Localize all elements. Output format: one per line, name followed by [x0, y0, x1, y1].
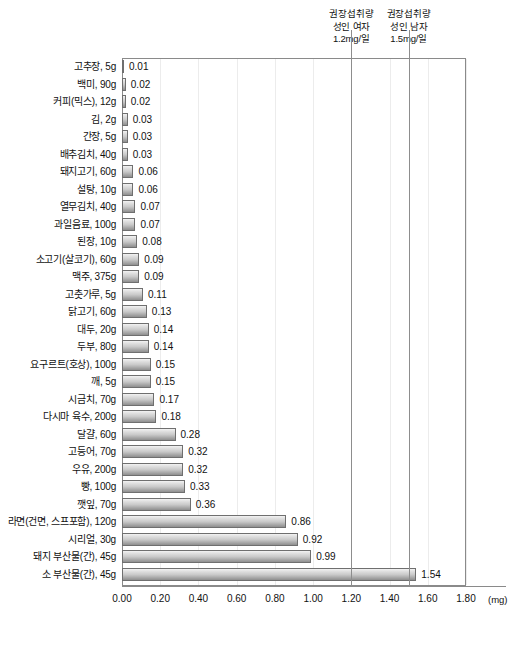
- bar-value-label: 0.33: [190, 478, 209, 496]
- bar-value-label: 0.18: [161, 408, 180, 426]
- category-label: 고추장, 5g: [74, 58, 116, 76]
- bar: [122, 165, 133, 178]
- category-label: 맥주, 375g: [72, 268, 116, 286]
- bar-value-label: 0.09: [144, 268, 163, 286]
- bar-value-label: 0.36: [196, 496, 215, 514]
- bar-value-label: 0.32: [188, 461, 207, 479]
- bar-value-label: 0.15: [156, 373, 175, 391]
- chart-row: 커피(믹스), 12g0.02: [0, 93, 514, 111]
- category-label: 커피(믹스), 12g: [53, 93, 116, 111]
- bar-value-label: 0.02: [131, 93, 150, 111]
- chart-row: 열무김치, 40g0.07: [0, 198, 514, 216]
- chart-row: 김, 2g0.03: [0, 111, 514, 129]
- bar-value-label: 0.03: [133, 111, 152, 129]
- chart-row: 요구르트(호상), 100g0.15: [0, 356, 514, 374]
- category-label: 닭고기, 60g: [68, 303, 116, 321]
- bar: [122, 445, 183, 458]
- bar: [122, 428, 176, 441]
- category-label: 열무김치, 40g: [60, 198, 116, 216]
- x-tick-label: 1.80: [443, 593, 489, 604]
- chart-row: 깨, 5g0.15: [0, 373, 514, 391]
- category-label: 배추김치, 40g: [60, 146, 116, 164]
- bar: [122, 515, 286, 528]
- bar: [122, 358, 151, 371]
- chart-row: 라면(건면, 스프포함), 120g0.86: [0, 513, 514, 531]
- bar-value-label: 0.32: [188, 443, 207, 461]
- chart-row: 돼지고기, 60g0.06: [0, 163, 514, 181]
- bar: [122, 480, 185, 493]
- category-label: 고춧가루, 5g: [65, 286, 116, 304]
- bar-value-label: 0.06: [138, 181, 157, 199]
- chart-row: 소고기(살코기), 60g0.09: [0, 251, 514, 269]
- bar: [122, 270, 139, 283]
- bar-value-label: 0.99: [316, 548, 335, 566]
- bar: [122, 95, 126, 108]
- bar: [122, 550, 311, 563]
- chart-row: 달걀, 60g0.28: [0, 426, 514, 444]
- chart-row: 된장, 10g0.08: [0, 233, 514, 251]
- chart-row: 고등어, 70g0.32: [0, 443, 514, 461]
- chart-row: 과일음료, 100g0.07: [0, 216, 514, 234]
- chart-row: 고추장, 5g0.01: [0, 58, 514, 76]
- bar-value-label: 0.01: [129, 58, 148, 76]
- category-label: 요구르트(호상), 100g: [30, 356, 116, 374]
- reference-line-female: [351, 30, 352, 586]
- category-label: 김, 2g: [91, 111, 116, 129]
- bar-value-label: 0.06: [138, 163, 157, 181]
- bar-value-label: 1.54: [421, 566, 440, 584]
- category-label: 빵, 100g: [81, 478, 116, 496]
- bar-value-label: 0.86: [291, 513, 310, 531]
- bar: [122, 463, 183, 476]
- bar: [122, 410, 156, 423]
- category-label: 과일음료, 100g: [54, 216, 116, 234]
- bar-value-label: 0.92: [303, 531, 322, 549]
- bar: [122, 218, 135, 231]
- chart-row: 닭고기, 60g0.13: [0, 303, 514, 321]
- bar-value-label: 0.02: [131, 76, 150, 94]
- bar: [122, 148, 128, 161]
- chart-row: 돼지 부산물(간), 45g0.99: [0, 548, 514, 566]
- bar-value-label: 0.28: [181, 426, 200, 444]
- category-label: 소 부산물(간), 45g: [42, 566, 116, 584]
- bar: [122, 323, 149, 336]
- bar: [122, 130, 128, 143]
- category-label: 된장, 10g: [77, 233, 116, 251]
- reference-line-male: [409, 30, 410, 586]
- bar: [122, 60, 124, 73]
- reference-line-annotations: 권장섭취량성인 여자1.2mg/일권장섭취량성인 남자1.5mg/일: [0, 0, 514, 58]
- category-label: 간장, 5g: [83, 128, 116, 146]
- category-label: 우유, 200g: [72, 461, 116, 479]
- bar: [122, 305, 147, 318]
- bar: [122, 253, 139, 266]
- chart-row: 백미, 90g0.02: [0, 76, 514, 94]
- chart-row: 설탕, 10g0.06: [0, 181, 514, 199]
- category-label: 백미, 90g: [77, 76, 116, 94]
- category-label: 깨, 5g: [91, 373, 116, 391]
- chart-row: 고춧가루, 5g0.11: [0, 286, 514, 304]
- category-label: 설탕, 10g: [77, 181, 116, 199]
- bar: [122, 393, 154, 406]
- bar-value-label: 0.09: [144, 251, 163, 269]
- bar-value-label: 0.07: [140, 198, 159, 216]
- bar-value-label: 0.15: [156, 356, 175, 374]
- bar-value-label: 0.13: [152, 303, 171, 321]
- bar: [122, 200, 135, 213]
- category-label: 대두, 20g: [77, 321, 116, 339]
- bar-chart: 권장섭취량성인 여자1.2mg/일권장섭취량성인 남자1.5mg/일 고추장, …: [0, 0, 514, 668]
- bar-value-label: 0.03: [133, 146, 152, 164]
- bar-value-label: 0.07: [140, 216, 159, 234]
- chart-row: 두부, 80g0.14: [0, 338, 514, 356]
- chart-row: 우유, 200g0.32: [0, 461, 514, 479]
- x-axis-line: [122, 586, 506, 587]
- bar: [122, 533, 298, 546]
- x-axis-unit-label: (mg): [488, 594, 508, 605]
- chart-row: 소 부산물(간), 45g1.54: [0, 566, 514, 584]
- category-label: 두부, 80g: [77, 338, 116, 356]
- bar: [122, 78, 126, 91]
- category-label: 라면(건면, 스프포함), 120g: [8, 513, 116, 531]
- bar-value-label: 0.03: [133, 128, 152, 146]
- category-label: 시금치, 70g: [68, 391, 116, 409]
- chart-row: 대두, 20g0.14: [0, 321, 514, 339]
- chart-row: 다시마 육수, 200g0.18: [0, 408, 514, 426]
- bar: [122, 498, 191, 511]
